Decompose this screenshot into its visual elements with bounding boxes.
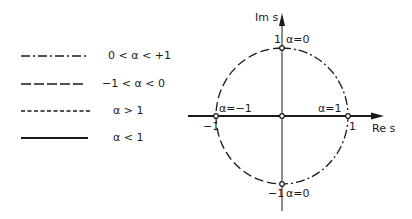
- legend-lines: [21, 56, 90, 138]
- diagram-canvas: [0, 0, 412, 219]
- legend-label-short-dash: α > 1: [113, 105, 143, 117]
- point-bottom: [280, 182, 285, 187]
- right-alpha-label: α=1: [318, 103, 341, 115]
- legend-label-long-dash: −1 < α < 0: [102, 78, 165, 90]
- right-tick-label: 1: [349, 121, 356, 133]
- point-right: [346, 114, 351, 119]
- root-locus-diagram: 0 < α < +1 −1 < α < 0 α > 1 α < 1 Im s R…: [0, 0, 412, 219]
- left-alpha-label: α=−1: [219, 103, 252, 115]
- legend-label-solid: α < 1: [113, 132, 143, 144]
- point-top: [280, 46, 285, 51]
- top-alpha-label: α=0: [286, 34, 309, 46]
- point-left: [214, 114, 219, 119]
- top-tick-label: 1: [274, 34, 281, 46]
- left-tick-label: −1: [203, 121, 219, 133]
- x-axis-label: Re s: [372, 123, 395, 135]
- legend-label-dash-dot: 0 < α < +1: [108, 50, 171, 62]
- bottom-tick-label: −1: [268, 188, 284, 200]
- imaginary-axis-arrow-icon: [279, 13, 285, 26]
- bottom-alpha-label: α=0: [286, 188, 309, 200]
- real-axis-arrow-icon: [371, 113, 384, 120]
- point-origin: [280, 114, 285, 119]
- y-axis-label: Im s: [255, 12, 278, 24]
